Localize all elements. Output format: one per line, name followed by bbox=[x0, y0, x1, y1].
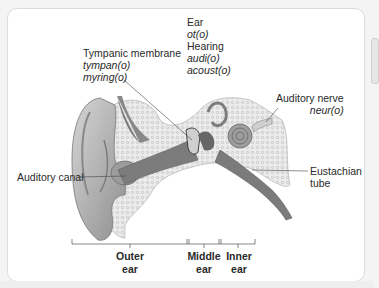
region-outer-ear: Outer ear bbox=[114, 250, 146, 276]
label-ear: Ear bbox=[187, 16, 231, 28]
root-myringo: myring(o) bbox=[83, 71, 181, 83]
label-eustachian-line2: tube bbox=[310, 177, 362, 189]
region-inner-ear: Inner ear bbox=[224, 250, 254, 276]
label-hearing: Hearing bbox=[187, 40, 231, 52]
label-ear-terms: Ear ot(o) Hearing audi(o) acoust(o) bbox=[187, 16, 231, 76]
label-tympanic-title: Tympanic membrane bbox=[83, 47, 181, 59]
region-middle-line2: ear bbox=[185, 263, 223, 276]
label-auditory-canal: Auditory canal bbox=[17, 171, 84, 183]
label-eustachian-line1: Eustachian bbox=[310, 165, 362, 177]
region-inner-line2: ear bbox=[224, 263, 254, 276]
region-inner-line1: Inner bbox=[224, 250, 254, 263]
region-outer-line1: Outer bbox=[114, 250, 146, 263]
label-eustachian-tube: Eustachian tube bbox=[310, 165, 362, 189]
label-auditory-nerve: Auditory nerve neur(o) bbox=[276, 92, 344, 116]
region-middle-line1: Middle bbox=[185, 250, 223, 263]
label-auditory-nerve-title: Auditory nerve bbox=[276, 92, 344, 104]
root-acousto: acoust(o) bbox=[187, 64, 231, 76]
root-tympano: tympan(o) bbox=[83, 59, 181, 71]
label-tympanic-membrane: Tympanic membrane tympan(o) myring(o) bbox=[83, 47, 181, 83]
root-neuro: neur(o) bbox=[276, 104, 344, 116]
root-oto: ot(o) bbox=[187, 28, 231, 40]
region-outer-line2: ear bbox=[114, 263, 146, 276]
region-middle-ear: Middle ear bbox=[185, 250, 223, 276]
root-audio: audi(o) bbox=[187, 52, 231, 64]
label-auditory-canal-title: Auditory canal bbox=[17, 171, 84, 183]
